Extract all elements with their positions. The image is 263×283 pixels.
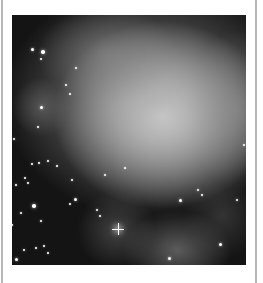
star — [56, 165, 58, 167]
star — [47, 252, 49, 254]
star — [236, 199, 238, 201]
nebula-glow — [182, 170, 246, 260]
star — [40, 220, 42, 222]
star — [69, 93, 71, 95]
star — [23, 249, 25, 251]
star — [47, 160, 49, 162]
star — [69, 203, 71, 205]
star — [31, 48, 34, 51]
star — [65, 84, 67, 86]
star — [40, 106, 43, 109]
nebula-image — [12, 15, 246, 265]
star — [40, 58, 42, 60]
star — [20, 212, 22, 214]
star — [168, 257, 171, 260]
star — [24, 177, 26, 179]
star — [243, 144, 245, 146]
star — [31, 163, 33, 165]
star — [96, 209, 98, 211]
right-border — [255, 0, 257, 283]
star — [197, 189, 199, 191]
star — [15, 258, 18, 261]
nebula-glow — [122, 210, 232, 265]
nebula-glow — [187, 30, 246, 190]
star — [35, 247, 37, 249]
star — [41, 50, 45, 54]
star — [37, 126, 39, 128]
nebula-glow — [77, 190, 157, 265]
star — [179, 199, 182, 202]
nebula-glow — [52, 20, 246, 210]
nebula-glow — [37, 15, 177, 105]
star — [43, 245, 45, 247]
star — [38, 162, 40, 164]
star — [27, 182, 29, 184]
star — [201, 194, 203, 196]
star — [15, 184, 17, 186]
star — [32, 204, 36, 208]
star — [75, 67, 77, 69]
star — [124, 167, 126, 169]
star — [74, 198, 77, 201]
star — [104, 174, 106, 176]
nebula-glow — [12, 15, 246, 220]
left-border — [1, 0, 3, 283]
star — [71, 179, 73, 181]
star — [219, 243, 222, 246]
star — [99, 215, 101, 217]
star — [12, 224, 13, 226]
star — [13, 138, 15, 140]
